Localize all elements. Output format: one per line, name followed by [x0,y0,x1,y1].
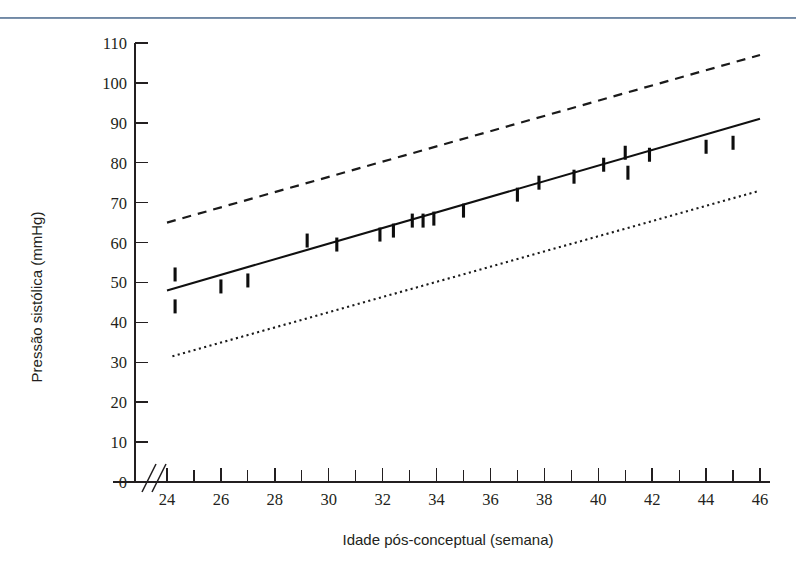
chart-figure: 0102030405060708090100110 Pressão sistól… [0,0,796,586]
x-tick-label: 46 [752,490,769,509]
y-tick-label: 20 [111,393,128,412]
x-tick-label: 40 [590,490,607,509]
y-tick-label: 110 [103,34,127,53]
x-tick-label: 30 [320,490,337,509]
x-tick-label: 44 [698,490,715,509]
chart-canvas: 0102030405060708090100110 Pressão sistól… [0,0,796,586]
y-tick-label: 100 [102,74,127,93]
y-axis-ticks [135,43,148,482]
y-axis-title: Pressão sistólica (mmHg) [28,212,45,383]
y-tick-label: 90 [111,114,128,133]
y-axis-tick-labels: 0102030405060708090100110 [102,34,127,492]
x-tick-label: 36 [482,490,499,509]
x-axis-ticks [167,468,760,482]
x-tick-label: 42 [644,490,661,509]
y-tick-label: 80 [111,154,128,173]
data-markers-layer [175,136,733,314]
y-tick-label: 40 [111,313,128,332]
x-axis: 242628303234363840424446 Idade pós-conce… [113,468,770,548]
x-tick-label: 38 [536,490,553,509]
x-tick-label: 26 [213,490,230,509]
axis-break-mark [142,464,166,492]
series-line-dashed [167,55,760,223]
series-line-dotted [172,191,760,357]
y-tick-label: 50 [111,273,128,292]
x-tick-label: 24 [159,490,176,509]
header-rule [0,17,796,19]
x-tick-label: 32 [374,490,391,509]
x-tick-label: 34 [428,490,445,509]
y-tick-label: 60 [111,234,128,253]
y-axis: 0102030405060708090100110 Pressão sistól… [28,34,148,492]
y-tick-label: 10 [111,433,128,452]
x-tick-label: 28 [267,490,284,509]
y-tick-label: 70 [111,194,128,213]
x-axis-tick-labels: 242628303234363840424446 [159,490,769,509]
y-tick-label: 30 [111,353,128,372]
x-axis-title: Idade pós-conceptual (semana) [343,531,554,548]
